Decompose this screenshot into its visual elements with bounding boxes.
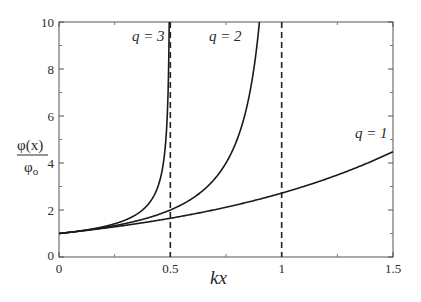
y-axis-label: φ(x) φo xyxy=(17,137,48,177)
label-q1: q = 1 xyxy=(355,125,388,141)
y-label-numerator: φ(x) xyxy=(17,137,43,154)
x-axis-label: kx xyxy=(210,267,227,288)
svg-text:10: 10 xyxy=(41,15,54,30)
label-q3: q = 3 xyxy=(132,28,165,44)
svg-text:0.5: 0.5 xyxy=(162,261,178,276)
chart: 00.511.50246810 q = 1 q = 2 q = 3 kx φ(x… xyxy=(0,0,421,302)
svg-text:6: 6 xyxy=(48,109,55,124)
svg-text:2: 2 xyxy=(48,203,55,218)
svg-text:1: 1 xyxy=(278,261,285,276)
svg-text:1.5: 1.5 xyxy=(385,261,401,276)
label-q2: q = 2 xyxy=(209,28,242,44)
curves xyxy=(59,22,393,234)
svg-text:0: 0 xyxy=(56,261,63,276)
asymptote-lines xyxy=(170,22,281,257)
axis-ticks: 00.511.50246810 xyxy=(41,15,401,276)
plot-frame xyxy=(59,22,393,257)
svg-text:4: 4 xyxy=(48,156,55,171)
curve-q3 xyxy=(59,22,169,234)
svg-text:8: 8 xyxy=(48,62,55,77)
svg-text:0: 0 xyxy=(48,248,55,263)
curve-q2 xyxy=(59,22,259,234)
y-label-denominator: φo xyxy=(24,159,39,177)
